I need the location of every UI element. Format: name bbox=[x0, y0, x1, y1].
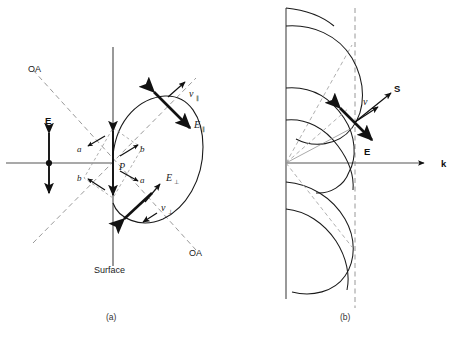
svg-text:⊥: ⊥ bbox=[168, 209, 173, 215]
panel-b-E-label: E bbox=[364, 146, 370, 157]
panel-a-E-label: E bbox=[45, 115, 51, 126]
panel-b-k-label: k bbox=[441, 158, 447, 169]
svg-text:v: v bbox=[161, 202, 166, 213]
svg-text:E: E bbox=[193, 119, 200, 130]
panel-a-label-a-lower: a bbox=[140, 175, 145, 185]
optics-figure-svg: OA OA E P a b b a v ∥ E ∥ E ⊥ v ⊥ Surfac… bbox=[0, 0, 463, 339]
panel-a-label-b-upper: b bbox=[140, 144, 145, 154]
panel-b-caption: (b) bbox=[340, 312, 351, 322]
svg-text:⊥: ⊥ bbox=[174, 179, 179, 185]
panel-b-S-label: S bbox=[394, 83, 400, 94]
panel-a-surface-label: Surface bbox=[94, 265, 125, 275]
svg-text:v: v bbox=[189, 88, 194, 99]
panel-a-point-P-label: P bbox=[118, 161, 125, 172]
svg-text:E: E bbox=[165, 172, 172, 183]
svg-text:∥: ∥ bbox=[196, 95, 199, 102]
panel-b-v-label: v bbox=[363, 96, 368, 107]
figure-background bbox=[0, 0, 463, 339]
panel-a-label-b-lower: b bbox=[77, 173, 82, 183]
figure-container: OA OA E P a b b a v ∥ E ∥ E ⊥ v ⊥ Surfac… bbox=[0, 0, 463, 339]
panel-a-oa-bottom-label: OA bbox=[189, 248, 202, 258]
panel-a-label-a-upper: a bbox=[77, 144, 82, 154]
panel-a-caption: (a) bbox=[106, 312, 117, 322]
panel-a-E-origin-dot bbox=[46, 160, 52, 166]
panel-a-oa-top-label: OA bbox=[28, 64, 41, 74]
svg-text:∥: ∥ bbox=[202, 126, 205, 133]
